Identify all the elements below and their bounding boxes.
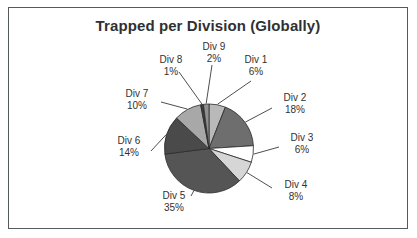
pie-label-div-9-name: Div 9 [194, 41, 234, 53]
leader-line-div-9 [206, 65, 212, 104]
pie-label-div-9: Div 9 2% [194, 41, 234, 64]
leader-line-div-7 [161, 102, 187, 109]
leader-line-div-4 [247, 173, 272, 188]
leader-line-div-6 [151, 135, 166, 151]
pie-label-div-3-value: 6% [281, 144, 323, 156]
pie-label-div-6: Div 6 14% [107, 135, 151, 158]
pie-label-div-5-name: Div 5 [152, 190, 196, 202]
pie-label-div-7: Div 7 10% [115, 88, 159, 111]
pie-label-div-4-name: Div 4 [275, 179, 317, 191]
pie-label-div-2-name: Div 2 [273, 92, 317, 104]
pie-label-div-7-value: 10% [115, 100, 159, 112]
chart-frame: Trapped per Division (Globally) Div 1 6%… [8, 7, 408, 229]
pie-label-div-2: Div 2 18% [273, 92, 317, 115]
pie-chart: Div 1 6% Div 2 18% Div 3 6% Div 4 8% Div… [9, 8, 409, 230]
pie-label-div-8-value: 1% [151, 66, 191, 78]
pie-label-div-6-value: 14% [107, 147, 151, 159]
pie-label-div-9-value: 2% [194, 53, 234, 65]
pie-label-div-3: Div 3 6% [281, 132, 323, 155]
pie-label-div-1-value: 6% [236, 66, 276, 78]
pie-label-div-1: Div 1 6% [236, 54, 276, 77]
pie-label-div-7-name: Div 7 [115, 88, 159, 100]
pie-label-div-4-value: 8% [275, 191, 317, 203]
leader-line-div-2 [245, 108, 272, 122]
leader-line-div-1 [217, 81, 251, 104]
pie-label-div-8: Div 8 1% [151, 54, 191, 77]
pie-label-div-2-value: 18% [273, 104, 317, 116]
pie-label-div-5: Div 5 35% [152, 190, 196, 213]
pie-label-div-3-name: Div 3 [281, 132, 323, 144]
pie-label-div-8-name: Div 8 [151, 54, 191, 66]
pie-label-div-1-name: Div 1 [236, 54, 276, 66]
leader-line-div-3 [254, 147, 279, 154]
pie-label-div-5-value: 35% [152, 202, 196, 214]
pie-slices [164, 104, 253, 193]
pie-label-div-6-name: Div 6 [107, 135, 151, 147]
pie-label-div-4: Div 4 8% [275, 179, 317, 202]
